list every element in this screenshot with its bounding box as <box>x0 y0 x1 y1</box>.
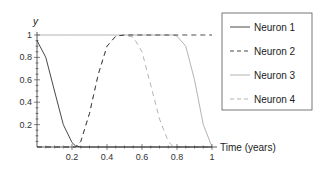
legend-item-label: Neuron 3 <box>254 70 296 81</box>
legend-item-label: Neuron 1 <box>254 22 296 33</box>
x-tick-label: 0.2 <box>66 152 79 162</box>
x-tick-label: 0.8 <box>171 152 184 162</box>
y-tick-label: 0.2 <box>19 120 32 130</box>
legend-item-label: Neuron 4 <box>254 94 296 105</box>
y-tick-label: 0.6 <box>19 75 32 85</box>
y-tick-label: 1 <box>27 30 32 40</box>
y-axis-label: y <box>32 16 39 27</box>
legend: Neuron 1Neuron 2Neuron 3Neuron 4 <box>222 13 312 110</box>
x-tick-label: 1 <box>209 152 214 162</box>
legend-item-label: Neuron 2 <box>254 46 296 57</box>
axes: 0.20.40.60.810.20.40.60.81 <box>19 30 217 162</box>
series-line-neuron-4 <box>37 35 212 147</box>
series-line-neuron-3 <box>37 35 212 147</box>
x-tick-label: 0.6 <box>136 152 149 162</box>
x-axis-label: Time (years) <box>220 142 276 153</box>
y-tick-label: 0.4 <box>19 97 32 107</box>
plot-area <box>37 35 212 147</box>
series-line-neuron-1 <box>37 41 212 147</box>
y-tick-label: 0.8 <box>19 52 32 62</box>
chart: 0.20.40.60.810.20.40.60.81 y Time (years… <box>0 0 313 171</box>
x-tick-label: 0.4 <box>101 152 114 162</box>
series-line-neuron-2 <box>37 35 212 147</box>
